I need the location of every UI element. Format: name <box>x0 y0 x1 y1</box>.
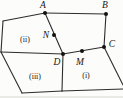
point-dot-B <box>104 12 108 16</box>
point-label-B: B <box>102 0 108 10</box>
point-dot-C <box>102 45 106 49</box>
point-label-M: M <box>75 57 85 67</box>
point-label-C: C <box>109 39 116 49</box>
point-label-N: N <box>42 30 50 40</box>
point-label-D: D <box>53 57 61 67</box>
point-label-A: A <box>39 0 46 10</box>
point-dot-D <box>61 52 65 56</box>
geometry-diagram: ABNCDM(ii)(iii)(i) <box>0 0 123 98</box>
geometry-figure: ABNCDM(ii)(iii)(i) <box>0 0 123 98</box>
point-dot-A <box>43 11 47 15</box>
region-label-iii: (iii) <box>29 72 41 81</box>
region-label-i: (i) <box>82 71 90 80</box>
point-dot-M <box>80 49 84 53</box>
point-dot-N <box>52 33 56 37</box>
region-label-ii: (ii) <box>20 35 30 44</box>
